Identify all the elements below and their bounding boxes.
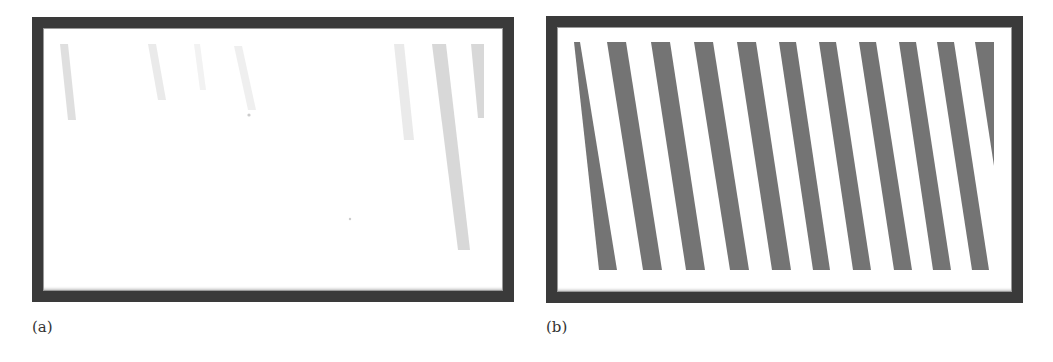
- stripe: [607, 42, 662, 270]
- stripe: [694, 42, 749, 270]
- stripe: [737, 42, 791, 270]
- stripe: [779, 42, 830, 270]
- panel-b-caption: (b): [546, 318, 567, 336]
- stripe: [394, 44, 414, 140]
- panel-a-caption: (a): [32, 318, 53, 336]
- panel-b-image: [557, 27, 1012, 292]
- stripe: [60, 44, 76, 120]
- stripe: [194, 44, 206, 90]
- speck: [349, 218, 351, 220]
- stripe: [432, 44, 470, 250]
- stripe: [234, 46, 256, 110]
- stripe: [148, 44, 166, 100]
- panel-b-frame: [546, 16, 1023, 303]
- stripe: [819, 42, 871, 270]
- stripe: [574, 42, 617, 270]
- stripe: [651, 42, 705, 270]
- speck: [247, 113, 250, 116]
- panel-a-frame: [32, 17, 514, 302]
- panel-a-image: [43, 28, 503, 291]
- stripe: [859, 42, 912, 270]
- stripe: [471, 44, 484, 118]
- stripe-partial: [975, 42, 994, 166]
